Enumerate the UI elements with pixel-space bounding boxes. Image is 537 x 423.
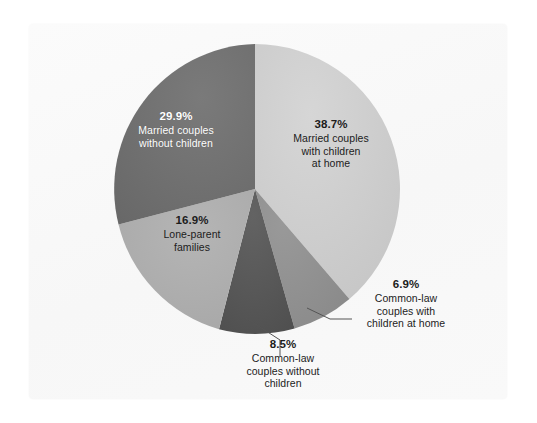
pie-label-percent: 8.5% (222, 338, 344, 351)
pie-label-description: Married couples without children (114, 124, 238, 148)
pie-label-description: Common-law couples without children (222, 352, 344, 389)
pie-label-percent: 16.9% (136, 214, 248, 227)
pie-label-percent: 6.9% (344, 278, 468, 291)
pie-label-married-without-children: 29.9% Married couples without children (114, 110, 238, 149)
pie-label-married-with-children: 38.7% Married couples with children at h… (272, 118, 390, 169)
pie-label-percent: 29.9% (114, 110, 238, 123)
pie-label-common-law-without-children: 8.5% Common-law couples without children (222, 338, 344, 389)
pie-label-description: Common-law couples with children at home (344, 292, 468, 329)
pie-label-description: Married couples with children at home (272, 132, 390, 169)
pie-label-lone-parent-families: 16.9% Lone-parent families (136, 214, 248, 253)
pie-label-description: Lone-parent families (136, 228, 248, 252)
pie-label-common-law-with-children: 6.9% Common-law couples with children at… (344, 278, 468, 329)
pie-label-percent: 38.7% (272, 118, 390, 131)
